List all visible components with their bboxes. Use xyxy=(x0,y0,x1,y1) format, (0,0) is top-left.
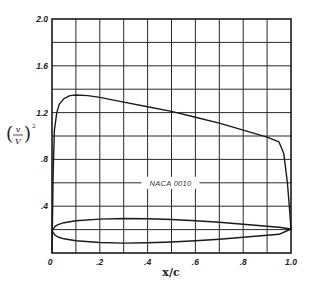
svg-text:V: V xyxy=(15,137,22,146)
y-tick-label: .4 xyxy=(41,201,48,211)
y-tick-label: 1.6 xyxy=(36,61,48,71)
svg-text:(: ( xyxy=(6,123,13,144)
y-tick-label: 2.0 xyxy=(35,14,48,24)
y-tick-label: .8 xyxy=(41,154,48,164)
svg-text:v: v xyxy=(16,125,21,134)
x-tick-label: .4 xyxy=(144,257,151,267)
x-tick-label: .8 xyxy=(240,257,247,267)
svg-text:): ) xyxy=(24,123,31,144)
y-axis-label: ( v V ) 2 xyxy=(6,122,36,146)
y-axis-ticks: .4.81.21.62.0 xyxy=(35,14,48,211)
x-tick-label: .6 xyxy=(192,257,199,267)
airfoil-label: NACA 0010 xyxy=(149,179,192,188)
svg-text:2: 2 xyxy=(32,122,36,129)
velocity-distribution-chart: NACA 0010 0.2.4.6.81.0 .4.81.21.62.0 x/c… xyxy=(0,0,312,292)
grid-lines xyxy=(52,19,291,253)
x-tick-label: .2 xyxy=(96,257,103,267)
y-tick-label: 1.2 xyxy=(36,108,48,118)
x-tick-label: 1.0 xyxy=(285,257,297,267)
x-axis-label: x/c xyxy=(162,266,180,279)
annotations: NACA 0010 xyxy=(142,177,200,189)
x-tick-label: 0 xyxy=(48,257,53,267)
